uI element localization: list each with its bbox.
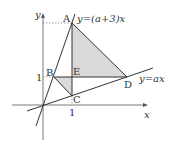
line-steep-label: y=(a+3)x <box>76 13 126 24</box>
point-d-label: D <box>124 79 132 90</box>
y-axis-label: y <box>34 9 41 20</box>
point-c-label: C <box>73 94 81 105</box>
point-a-label: A <box>62 13 71 24</box>
tick-y-1: 1 <box>36 72 42 83</box>
y-axis-arrow-icon <box>41 13 45 18</box>
point-b-label: B <box>46 67 53 78</box>
x-axis-arrow-icon <box>143 103 148 107</box>
line-shallow-label: y=ax <box>138 73 165 84</box>
coordinate-diagram: y x 1 1 A B C D E y=(a+3)x y=ax <box>0 0 173 153</box>
tick-x-1: 1 <box>69 107 75 118</box>
point-e-label: E <box>73 66 80 77</box>
x-axis-label: x <box>144 109 150 120</box>
